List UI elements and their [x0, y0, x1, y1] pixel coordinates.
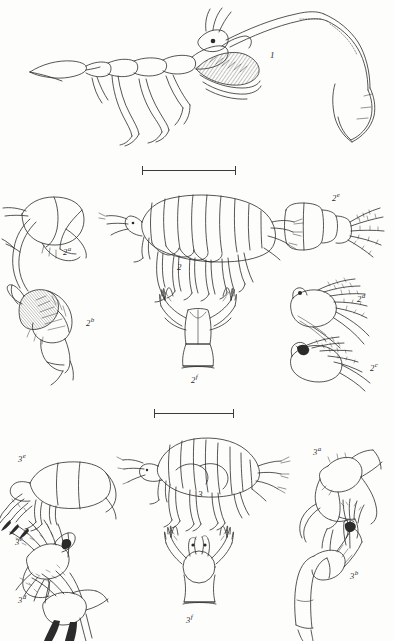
figure-label-3: 3 — [198, 490, 203, 499]
figure-label-suffix: d — [23, 593, 26, 601]
scale-bar-lower — [154, 409, 234, 418]
figure-2e-artwork — [285, 203, 385, 257]
figure-label-3c: 3c — [15, 536, 23, 546]
figure-label-2f: 2f — [191, 374, 198, 384]
figure-3f-artwork — [165, 526, 234, 604]
plate-line-art — [0, 0, 395, 641]
figure-label-suffix: c — [20, 535, 23, 543]
figure-label-number: 3 — [15, 537, 19, 547]
figure-label-1: 1 — [270, 51, 275, 60]
figure-label-2e: 2e — [332, 192, 340, 202]
figure-2a-artwork — [2, 197, 86, 291]
figure-2-artwork — [99, 195, 303, 302]
figure-label-3b: 3b — [350, 570, 358, 580]
figure-2c-artwork — [291, 337, 371, 391]
figure-label-suffix: d — [362, 292, 365, 300]
figure-label-number: 2 — [370, 363, 374, 373]
scale-bar-upper — [142, 166, 236, 175]
figure-label-suffix: f — [191, 613, 193, 621]
figure-label-3e: 3e — [18, 453, 26, 463]
figure-1-artwork — [30, 8, 375, 146]
figure-2f-artwork — [160, 288, 237, 368]
figure-label-3f: 3f — [186, 614, 193, 624]
figure-label-suffix: e — [23, 452, 26, 460]
illustration-plate: 12a22e2b2f2d2c3e33a3c3d3f3b — [0, 0, 395, 641]
figure-label-suffix: b — [91, 316, 94, 324]
figure-label-suffix: b — [355, 569, 358, 577]
figure-label-number: 2 — [191, 375, 195, 385]
figure-label-suffix: c — [375, 361, 378, 369]
figure-label-2d: 2d — [357, 293, 365, 303]
figure-label-number: 3 — [18, 454, 22, 464]
figure-label-number: 3 — [350, 571, 354, 581]
figure-label-number: 2 — [86, 318, 90, 328]
figure-2b-artwork — [7, 285, 73, 385]
figure-label-2a: 2a — [63, 246, 71, 256]
figure-label-suffix: a — [318, 445, 321, 453]
figure-2d-artwork — [291, 278, 369, 348]
scale-bar-upper-right-cap — [235, 166, 236, 175]
figure-3e-artwork — [0, 462, 116, 539]
figure-label-2: 2 — [177, 263, 182, 272]
figure-label-2c: 2c — [370, 362, 378, 372]
figure-label-number: 3 — [198, 489, 203, 499]
figure-label-suffix: f — [196, 373, 198, 381]
figure-label-number: 3 — [18, 595, 22, 605]
figure-3c-artwork — [10, 520, 75, 603]
scale-bar-upper-rule — [142, 170, 236, 171]
figure-label-number: 3 — [186, 615, 190, 625]
figure-label-3a: 3a — [313, 446, 321, 456]
figure-label-number: 2 — [357, 294, 361, 304]
figure-label-number: 2 — [63, 247, 67, 257]
figure-label-suffix: e — [337, 191, 340, 199]
figure-3a-artwork — [300, 450, 382, 550]
figure-3-artwork — [117, 438, 290, 531]
figure-label-number: 1 — [270, 50, 275, 60]
scale-bar-lower-right-cap — [233, 409, 234, 418]
figure-label-2b: 2b — [86, 317, 94, 327]
figure-label-suffix: a — [68, 245, 71, 253]
figure-3d-artwork — [32, 565, 108, 641]
figure-label-number: 3 — [313, 447, 317, 457]
figure-label-number: 2 — [332, 193, 336, 203]
scale-bar-lower-rule — [154, 413, 234, 414]
figure-label-number: 2 — [177, 262, 182, 272]
figure-label-3d: 3d — [18, 594, 26, 604]
